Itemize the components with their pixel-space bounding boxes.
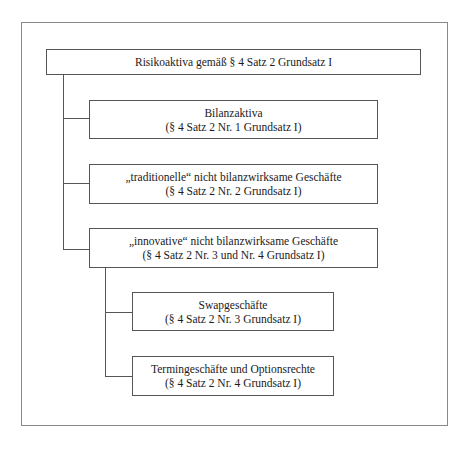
node-title: Swapgeschäfte bbox=[199, 298, 268, 312]
node-reference: (§ 4 Satz 2 Nr. 2 Grundsatz I) bbox=[165, 184, 301, 198]
connector-to-innovative bbox=[63, 249, 89, 250]
node-innovative-geschaefte: „innovative“ nicht bilanzwirksame Geschä… bbox=[89, 228, 378, 268]
node-reference: (§ 4 Satz 2 Nr. 1 Grundsatz I) bbox=[165, 120, 301, 134]
connector-to-bilanzaktiva bbox=[63, 118, 89, 119]
node-title: „traditionelle“ nicht bilanzwirksame Ges… bbox=[125, 170, 341, 184]
node-reference: (§ 4 Satz 2 Nr. 3 und Nr. 4 Grundsatz I) bbox=[142, 248, 324, 262]
node-termingeschaefte-optionsrechte: Termingeschäfte und Optionsrechte (§ 4 S… bbox=[132, 356, 334, 396]
connector-to-termin bbox=[105, 376, 132, 377]
node-reference: (§ 4 Satz 2 Nr. 3 Grundsatz I) bbox=[165, 312, 301, 326]
root-label: Risikoaktiva gemäß § 4 Satz 2 Grundsatz … bbox=[135, 55, 332, 69]
node-bilanzaktiva: Bilanzaktiva (§ 4 Satz 2 Nr. 1 Grundsatz… bbox=[89, 100, 378, 139]
connector-sub-vertical bbox=[105, 267, 106, 377]
node-title: „innovative“ nicht bilanzwirksame Geschä… bbox=[129, 234, 338, 248]
connector-main-vertical bbox=[63, 74, 64, 249]
node-title: Termingeschäfte und Optionsrechte bbox=[151, 362, 315, 376]
connector-to-traditionelle bbox=[63, 183, 89, 184]
node-swapgeschaefte: Swapgeschäfte (§ 4 Satz 2 Nr. 3 Grundsat… bbox=[132, 292, 334, 331]
node-title: Bilanzaktiva bbox=[204, 106, 262, 120]
node-traditionelle-geschaefte: „traditionelle“ nicht bilanzwirksame Ges… bbox=[89, 164, 378, 204]
node-reference: (§ 4 Satz 2 Nr. 4 Grundsatz I) bbox=[165, 376, 301, 390]
root-node: Risikoaktiva gemäß § 4 Satz 2 Grundsatz … bbox=[46, 49, 421, 75]
connector-to-swap bbox=[105, 312, 132, 313]
